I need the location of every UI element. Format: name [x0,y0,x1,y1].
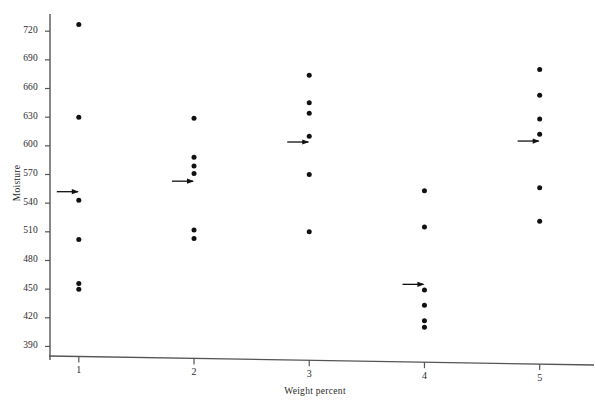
mean-arrow [518,138,540,143]
x-axis-label: Weight percent [265,386,365,396]
data-point [192,163,197,168]
data-point [192,171,197,176]
data-point [192,116,197,121]
data-point [422,225,427,230]
data-point [537,185,542,190]
data-point [422,325,427,330]
y-tick-label: 600 [10,139,38,149]
data-point [537,132,542,137]
y-tick-label: 720 [10,25,38,35]
scatter-plot-figure: Moisture Weight percent 3904204504805105… [0,0,595,412]
data-point [422,288,427,293]
data-point [307,172,312,177]
data-point [192,155,197,160]
x-tick-label: 2 [179,366,209,377]
data-point [307,73,312,78]
data-point [192,227,197,232]
y-tick-label: 540 [10,197,38,207]
data-point [307,229,312,234]
data-point [192,236,197,241]
mean-arrow [172,179,194,184]
data-point [76,22,81,27]
y-tick-label: 420 [10,311,38,321]
data-point [307,100,312,105]
data-point [537,93,542,98]
y-tick-label: 450 [10,283,38,293]
data-point [76,287,81,292]
y-tick-label: 390 [10,340,38,350]
data-point [307,134,312,139]
x-axis-spine [49,356,594,365]
data-point [76,198,81,203]
y-tick-label: 690 [10,53,38,63]
mean-arrow-head [533,138,540,143]
data-point [76,281,81,286]
x-tick-label: 1 [64,364,94,375]
data-point [537,219,542,224]
data-point [537,117,542,122]
y-tick-label: 480 [10,254,38,264]
data-point [422,303,427,308]
plot-canvas [0,0,595,412]
axis-lines [49,14,594,365]
y-tick-label: 510 [10,225,38,235]
data-point [307,111,312,116]
mean-arrow-group [57,138,540,286]
data-point-group [76,22,542,330]
mean-arrow-head [417,282,424,287]
data-point [422,318,427,323]
mean-arrow [57,189,79,194]
data-point [76,237,81,242]
x-tick-label: 5 [525,372,555,383]
y-tick-label: 570 [10,168,38,178]
mean-arrow [287,139,309,144]
data-point [422,188,427,193]
x-tick-label: 3 [294,368,324,379]
y-axis-ticks [45,31,50,346]
x-tick-label: 4 [409,370,439,381]
mean-arrow-head [72,189,79,194]
y-tick-label: 630 [10,111,38,121]
mean-arrow-head [187,179,194,184]
mean-arrow [402,282,424,287]
data-point [537,67,542,72]
data-point [76,115,81,120]
mean-arrow-head [302,139,309,144]
y-tick-label: 660 [10,82,38,92]
